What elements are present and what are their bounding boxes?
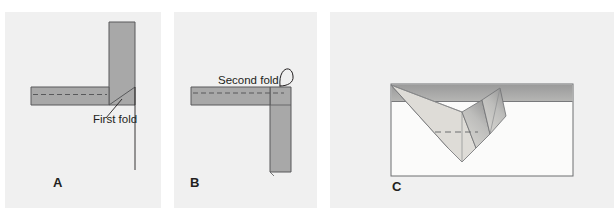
vertical-fabric-strip [109, 22, 135, 105]
callout-second-fold: Second fold [218, 74, 279, 86]
strip-bottom-notch [270, 172, 274, 176]
panel-a-illustration [5, 12, 161, 208]
panel-label-c: C [392, 179, 401, 194]
figure-container: First fold A Second fold B [0, 0, 614, 208]
panel-b: Second fold B [174, 12, 317, 208]
panel-label-b: B [190, 175, 199, 190]
horizontal-fabric-strip [191, 87, 270, 105]
panel-a: First fold A [5, 12, 161, 208]
panel-label-a: A [53, 175, 62, 190]
panel-c: C [330, 12, 614, 208]
fold-direction-arrow-icon [280, 69, 293, 86]
panel-c-illustration [330, 12, 614, 208]
vertical-fabric-strip [270, 87, 291, 172]
horizontal-fabric-strip [31, 87, 109, 105]
callout-first-fold: First fold [93, 113, 137, 125]
